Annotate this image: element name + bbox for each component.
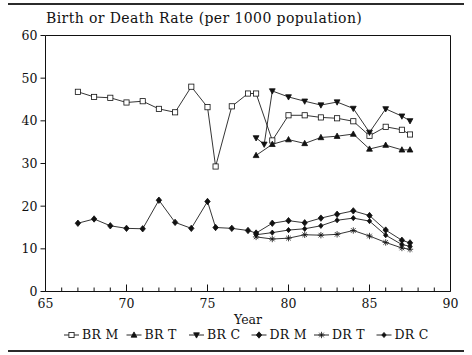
- x-tick-label: 80: [281, 296, 297, 311]
- line-chart: 0102030405060657075808590YearBR MBR TBR …: [0, 0, 472, 355]
- y-tick-label: 20: [22, 199, 38, 214]
- series-dr-m: [75, 197, 413, 246]
- legend-item-br-m[interactable]: BR M: [64, 327, 119, 342]
- series-br-t: [253, 131, 413, 158]
- x-tick-label: 65: [38, 296, 54, 311]
- legend-label: DR C: [395, 327, 429, 342]
- series-br-m: [75, 84, 412, 169]
- x-tick-label: 90: [443, 296, 459, 311]
- x-tick-label: 70: [119, 296, 135, 311]
- y-tick-label: 10: [22, 241, 38, 256]
- y-tick-label: 30: [22, 156, 38, 171]
- x-axis-label: Year: [233, 312, 262, 327]
- x-tick-label: 85: [362, 296, 378, 311]
- y-tick-label: 0: [30, 284, 38, 299]
- y-tick-label: 60: [22, 28, 38, 43]
- legend-item-dr-m[interactable]: DR M: [252, 327, 307, 342]
- legend-item-br-t[interactable]: BR T: [127, 327, 177, 342]
- plot-frame: [46, 36, 451, 292]
- legend-label: BR T: [145, 327, 177, 342]
- y-tick-label: 50: [22, 71, 38, 86]
- legend-label: BR M: [82, 327, 119, 342]
- legend-label: DR M: [270, 327, 307, 342]
- legend-item-dr-t[interactable]: DR T: [314, 327, 365, 342]
- legend-item-br-c[interactable]: BR C: [189, 327, 240, 342]
- legend-label: BR C: [207, 327, 240, 342]
- y-tick-label: 40: [22, 113, 38, 128]
- legend-item-dr-c[interactable]: DR C: [377, 327, 429, 342]
- legend-label: DR T: [332, 327, 365, 342]
- chart-page: Birth or Death Rate (per 1000 population…: [0, 0, 472, 355]
- series-dr-t: [253, 227, 413, 252]
- x-tick-label: 75: [200, 296, 216, 311]
